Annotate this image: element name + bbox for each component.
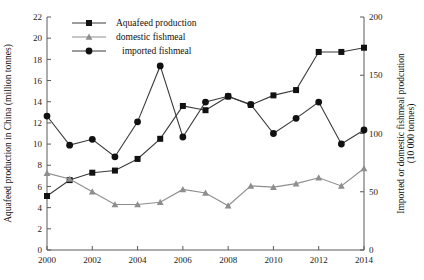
y2-axis-tick-label: 100 xyxy=(369,129,383,139)
y-axis-tick-label: 12 xyxy=(33,118,42,128)
data-point-square xyxy=(270,92,276,98)
legend-label-triangle: domestic fishmeal xyxy=(116,32,186,42)
y-axis-tick-label: 18 xyxy=(33,55,43,65)
x-axis-tick-label: 2002 xyxy=(83,255,101,265)
y-axis-tick-label: 8 xyxy=(38,160,43,170)
data-point-square xyxy=(135,156,141,162)
data-point-triangle xyxy=(315,174,322,180)
data-point-circle xyxy=(202,99,209,106)
data-point-circle xyxy=(361,127,368,134)
y2-axis-tick-label: 200 xyxy=(369,12,383,22)
y2-axis-title: Imported or domestic fishmeal prodcution xyxy=(396,53,406,214)
y-axis-tick-label: 0 xyxy=(38,245,43,255)
data-point-circle xyxy=(315,99,322,106)
legend-label-circle: imported fishmeal xyxy=(122,46,192,56)
legend-label-square: Aquafeed production xyxy=(116,18,197,28)
data-point-triangle xyxy=(44,170,51,176)
y-axis-tick-label: 4 xyxy=(38,203,43,213)
data-point-circle xyxy=(225,93,232,100)
y-axis-tick-label: 6 xyxy=(38,182,43,192)
data-point-circle xyxy=(293,115,300,122)
data-point-square xyxy=(157,136,163,142)
data-point-circle xyxy=(179,134,186,141)
legend-marker-square xyxy=(86,20,92,26)
data-point-square xyxy=(293,87,299,93)
data-point-square xyxy=(44,193,50,199)
data-point-square xyxy=(316,49,322,55)
data-point-square xyxy=(180,103,186,109)
x-axis-tick-label: 2014 xyxy=(355,255,374,265)
y-axis-tick-label: 20 xyxy=(33,33,43,43)
data-point-circle xyxy=(89,136,96,143)
x-axis-tick-label: 2010 xyxy=(264,255,283,265)
y2-axis-tick-label: 50 xyxy=(369,187,379,197)
data-point-circle xyxy=(247,101,254,108)
data-point-triangle xyxy=(361,165,368,171)
data-point-square xyxy=(89,170,95,176)
line-chart: 0246810121416182022050100150200200020022… xyxy=(0,0,424,280)
x-axis-tick-label: 2006 xyxy=(174,255,193,265)
data-point-circle xyxy=(157,63,164,70)
y-axis-tick-label: 10 xyxy=(33,139,43,149)
data-point-circle xyxy=(270,130,277,137)
data-point-circle xyxy=(44,113,51,120)
y2-axis-tick-label: 150 xyxy=(369,70,383,80)
y2-axis-title-line2: (10 000 tonnes) xyxy=(406,104,417,164)
data-point-circle xyxy=(338,141,345,148)
data-point-square xyxy=(203,107,209,113)
x-axis-tick-label: 2008 xyxy=(219,255,238,265)
y2-axis-tick-label: 0 xyxy=(369,245,374,255)
chart-container: 0246810121416182022050100150200200020022… xyxy=(0,0,424,280)
data-point-circle xyxy=(66,142,73,149)
y-axis-tick-label: 22 xyxy=(33,12,42,22)
data-point-square xyxy=(338,49,344,55)
data-point-circle xyxy=(112,153,119,160)
data-point-square xyxy=(112,168,118,174)
x-axis-tick-label: 2000 xyxy=(38,255,57,265)
y-axis-tick-label: 14 xyxy=(33,97,43,107)
data-point-circle xyxy=(134,118,141,125)
y-axis-title: Aquafeed production in China (million to… xyxy=(3,44,14,223)
data-point-triangle xyxy=(179,186,186,192)
x-axis-tick-label: 2012 xyxy=(310,255,328,265)
y-axis-tick-label: 16 xyxy=(33,76,43,86)
data-point-square xyxy=(361,45,367,51)
legend-marker-circle xyxy=(86,48,93,55)
data-point-triangle xyxy=(89,188,96,194)
y-axis-tick-label: 2 xyxy=(38,224,43,234)
x-axis-tick-label: 2004 xyxy=(129,255,148,265)
